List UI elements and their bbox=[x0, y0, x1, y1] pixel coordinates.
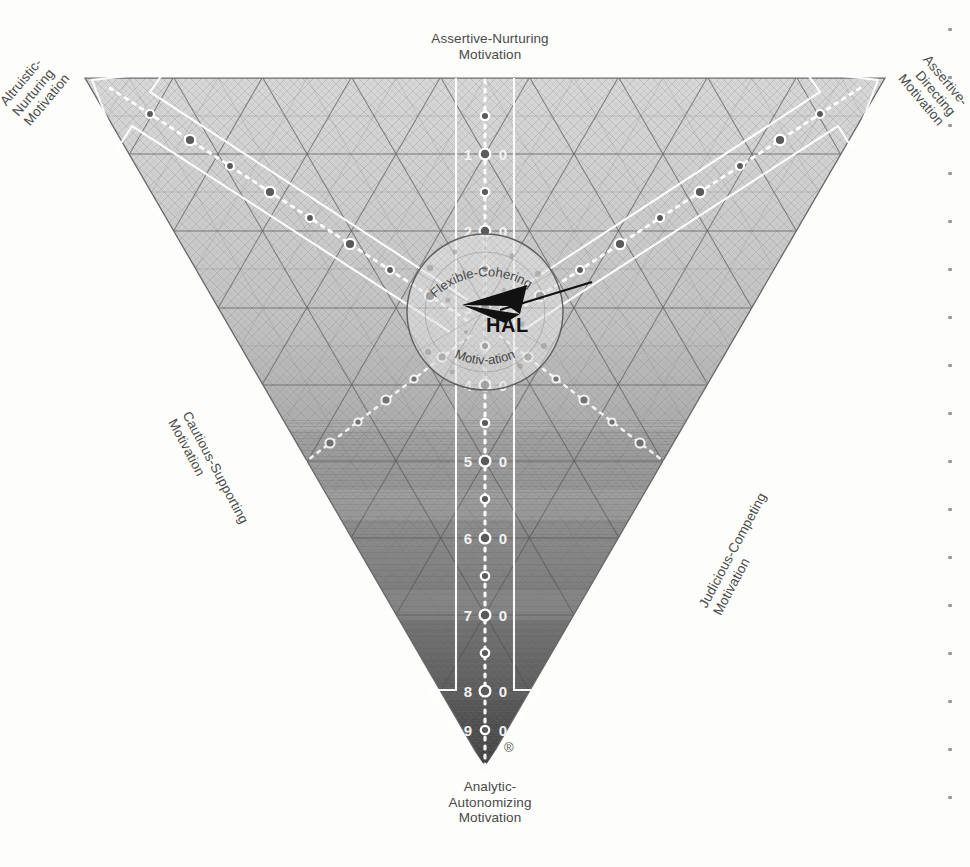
scan-edge-dot bbox=[948, 364, 952, 367]
scan-edge-dot bbox=[948, 172, 952, 175]
svg-text:0: 0 bbox=[499, 146, 507, 163]
svg-text:0: 0 bbox=[499, 530, 507, 547]
svg-text:0: 0 bbox=[499, 722, 507, 739]
scan-edge-dot bbox=[948, 700, 952, 703]
scan-edge-dot bbox=[948, 604, 952, 607]
svg-text:0: 0 bbox=[499, 607, 507, 624]
scan-edge-dot bbox=[948, 316, 952, 319]
scan-edge-dot bbox=[948, 796, 952, 799]
registered-trademark-mark: ® bbox=[504, 740, 514, 755]
scan-edge-dot bbox=[948, 28, 952, 31]
motivational-triangle-svg: 10 20 30 40 50 60 70 80 90 bbox=[0, 0, 970, 867]
svg-text:9: 9 bbox=[464, 722, 472, 739]
scan-edge-dot bbox=[948, 124, 952, 127]
svg-text:6: 6 bbox=[464, 530, 472, 547]
svg-text:7: 7 bbox=[464, 607, 472, 624]
vertex-label-analytic-autonomizing: Analytic- Autonomizing Motivation bbox=[400, 779, 580, 826]
scan-edge-dot bbox=[948, 748, 952, 751]
scan-edge-dot bbox=[948, 412, 952, 415]
scan-edge-dots bbox=[940, 0, 954, 867]
hal-marker-label: HAL bbox=[486, 314, 529, 337]
scan-edge-dot bbox=[948, 460, 952, 463]
scan-edge-dot bbox=[948, 508, 952, 511]
svg-text:1: 1 bbox=[464, 146, 472, 163]
vertex-label-assertive-nurturing: Assertive-Nurturing Motivation bbox=[400, 31, 580, 62]
scan-edge-dot bbox=[948, 220, 952, 223]
svg-text:0: 0 bbox=[499, 683, 507, 700]
svg-text:0: 0 bbox=[499, 453, 507, 470]
scan-edge-dot bbox=[948, 268, 952, 271]
svg-text:5: 5 bbox=[464, 453, 472, 470]
scan-edge-dot bbox=[948, 76, 952, 79]
scan-edge-dot bbox=[948, 652, 952, 655]
chart-canvas: 10 20 30 40 50 60 70 80 90 bbox=[0, 0, 970, 867]
svg-text:8: 8 bbox=[464, 683, 472, 700]
scan-edge-dot bbox=[948, 556, 952, 559]
